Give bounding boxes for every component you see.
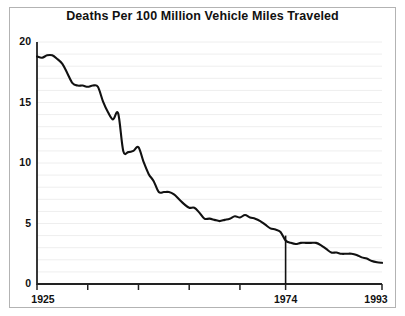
y-axis-tick-label: 5 xyxy=(7,217,31,229)
data-series-line xyxy=(37,55,382,263)
y-axis-tick-label: 0 xyxy=(7,277,31,289)
chart-plot-area xyxy=(0,0,405,316)
y-axis-tick-label: 20 xyxy=(7,35,31,47)
x-axis-tick-label: 1974 xyxy=(264,293,308,305)
gridlines-group xyxy=(37,42,382,272)
x-axis-tick-label: 1993 xyxy=(354,293,398,305)
y-axis-tick-label: 15 xyxy=(7,96,31,108)
y-axis-tick-label: 10 xyxy=(7,156,31,168)
chart-figure: Deaths Per 100 Million Vehicle Miles Tra… xyxy=(0,0,405,316)
x-axis-tick-label: 1925 xyxy=(21,293,65,305)
